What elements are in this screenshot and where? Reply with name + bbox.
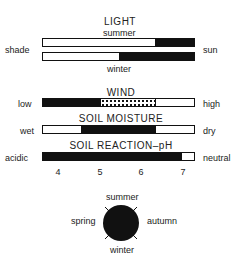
- ph-black-segment: [43, 153, 182, 160]
- ph-tick-4: 4: [55, 167, 60, 177]
- winter-label: winter: [107, 64, 131, 74]
- wind-bar: [42, 98, 195, 107]
- moisture-dry-label: dry: [203, 126, 216, 136]
- soil-moisture-title: SOIL MOISTURE: [79, 113, 163, 124]
- moisture-wet-label: wet: [20, 126, 34, 136]
- wind-low-label: low: [18, 99, 32, 109]
- soil-ph-bar: [42, 152, 195, 161]
- ph-acidic-label: acidic: [5, 153, 28, 163]
- season-spring-label: spring: [71, 216, 96, 226]
- season-autumn-label: autumn: [147, 216, 177, 226]
- wind-high-label: high: [203, 99, 220, 109]
- winter-sun-segment: [119, 53, 195, 60]
- light-winter-bar: [42, 52, 195, 61]
- moisture-black-segment: [81, 126, 157, 133]
- soil-moisture-bar: [42, 125, 195, 134]
- ph-tick-5: 5: [97, 167, 102, 177]
- light-title: LIGHT: [104, 16, 136, 27]
- ph-tick-6: 6: [138, 167, 143, 177]
- season-dial-icon: [96, 198, 146, 248]
- sun-label: sun: [203, 45, 218, 55]
- light-summer-bar: [42, 38, 195, 47]
- wind-title: WIND: [107, 87, 136, 98]
- soil-ph-title: SOIL REACTION–pH: [69, 140, 172, 151]
- summer-sun-segment: [155, 39, 194, 46]
- ph-neutral-label: neutral: [203, 153, 231, 163]
- wind-black-segment: [43, 99, 100, 106]
- ph-tick-7: 7: [180, 167, 185, 177]
- summer-label: summer: [103, 28, 136, 38]
- wind-dotted-segment: [100, 99, 156, 106]
- shade-label: shade: [5, 45, 30, 55]
